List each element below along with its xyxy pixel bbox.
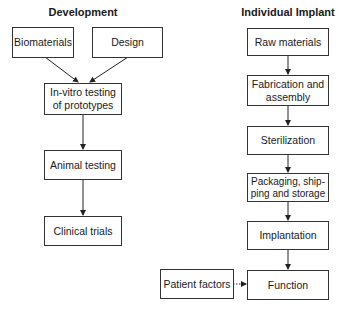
- sterilization-node: Sterilization: [247, 126, 329, 155]
- clinical-trials-node: Clinical trials: [44, 216, 122, 246]
- packaging-node: Packaging, ship-ping and storage: [247, 173, 329, 202]
- development-title: Development: [42, 6, 124, 18]
- implantation-node: Implantation: [247, 221, 329, 250]
- in-vitro-node: In-vitro testing of prototypes: [44, 83, 122, 115]
- individual-implant-title: Individual Implant: [240, 6, 336, 18]
- animal-testing-node: Animal testing: [44, 150, 122, 180]
- fabrication-node: Fabrication and assembly: [247, 75, 329, 106]
- edge-design-invitro: [90, 57, 128, 82]
- function-node: Function: [247, 270, 329, 300]
- raw-materials-node: Raw materials: [247, 28, 329, 56]
- design-node: Design: [92, 27, 163, 58]
- edge-biomaterials-invitro: [45, 57, 78, 82]
- patient-factors-node: Patient factors: [160, 269, 234, 299]
- biomaterials-node: Biomaterials: [12, 27, 74, 58]
